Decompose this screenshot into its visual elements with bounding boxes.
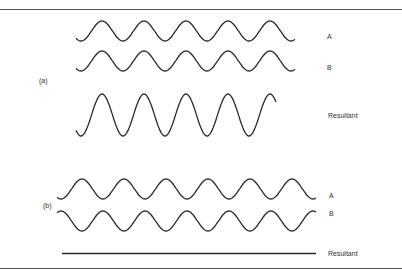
wave-a-label: A xyxy=(329,192,334,199)
resultant-label: Resultant xyxy=(328,112,358,119)
part-a-label: (a) xyxy=(39,77,48,85)
wave-a-label: A xyxy=(327,33,332,40)
wave-interference-diagram: (a) A B Resultant (b) A B Resultant xyxy=(0,0,402,277)
wave-b-constructive xyxy=(76,51,295,71)
resultant-wave-constructive xyxy=(76,94,276,136)
resultant-label: Resultant xyxy=(328,250,358,257)
wave-a-constructive xyxy=(76,21,295,41)
wave-b-label: B xyxy=(329,210,334,217)
part-b: (b) A B Resultant xyxy=(43,179,358,257)
part-b-label: (b) xyxy=(43,202,52,210)
wave-b-destructive xyxy=(57,211,316,231)
part-a: (a) A B Resultant xyxy=(39,21,358,136)
wave-a-destructive xyxy=(57,179,316,199)
wave-b-label: B xyxy=(327,64,332,71)
